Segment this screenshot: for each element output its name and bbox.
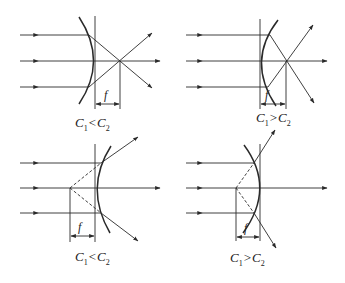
refracted-ray [89,33,152,87]
c1-symbol: C [256,110,265,125]
focal-length-label: f [104,88,107,103]
c2-symbol: C [252,250,261,265]
panel-top-left [20,16,160,109]
c1-subscript: 1 [84,124,88,133]
refracted-ray [254,130,275,163]
refracted-ray [270,35,314,103]
lens-surface [97,146,111,233]
virtual-ray [70,188,101,213]
focal-length-label: f [78,220,81,235]
focal-length-label: f [244,221,247,236]
curvature-caption: C1>C2 [230,250,265,268]
refracted-ray [89,35,152,88]
virtual-ray [236,188,254,213]
c2-symbol: C [97,115,106,130]
curvature-caption: C1<C2 [75,115,110,133]
lens-surface [79,17,94,104]
panel-top-right [186,19,327,109]
optics-figure: f f f f C1<C2 C1>C2 C1<C2 C1>C2 [0,0,345,283]
virtual-ray [70,163,101,188]
c1-symbol: C [75,115,84,130]
comparison-operator: < [89,249,96,264]
comparison-operator: > [244,250,251,265]
focal-length-label: f [265,88,268,103]
c1-symbol: C [230,250,239,265]
comparison-operator: > [270,110,277,125]
c1-subscript: 1 [84,258,88,267]
ray-diagrams [0,0,345,283]
c2-subscript: 2 [106,258,110,267]
refracted-ray [101,137,138,163]
c2-symbol: C [97,249,106,264]
c2-subscript: 2 [261,259,265,268]
c2-subscript: 2 [106,124,110,133]
panel-bottom-left [20,137,160,242]
refracted-ray [254,213,276,248]
curvature-caption: C1<C2 [75,249,110,267]
panel-bottom-right [186,130,327,248]
comparison-operator: < [89,115,96,130]
refracted-ray [268,25,313,87]
c1-subscript: 1 [265,119,269,128]
c1-subscript: 1 [239,259,243,268]
c2-subscript: 2 [287,119,291,128]
c2-symbol: C [278,110,287,125]
c1-symbol: C [75,249,84,264]
virtual-ray [236,163,254,188]
lens-surface [261,20,278,106]
curvature-caption: C1>C2 [256,110,291,128]
